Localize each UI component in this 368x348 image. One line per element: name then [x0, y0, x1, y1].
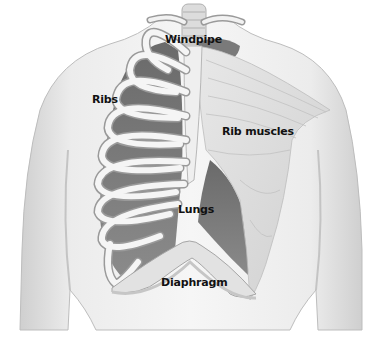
label-rib-muscles: Rib muscles	[222, 125, 294, 138]
label-diaphragm: Diaphragm	[161, 276, 227, 289]
chest-illustration	[0, 0, 368, 348]
chest-anatomy-diagram: Windpipe Ribs Rib muscles Lungs Diaphrag…	[0, 0, 368, 348]
label-ribs: Ribs	[92, 93, 118, 106]
label-lungs: Lungs	[178, 203, 214, 216]
label-windpipe: Windpipe	[165, 33, 222, 46]
